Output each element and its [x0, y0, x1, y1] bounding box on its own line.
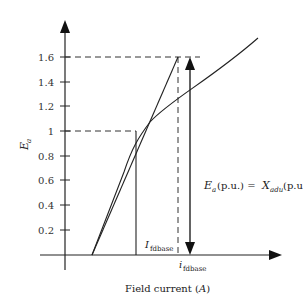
tick-0-8: 0.8: [38, 151, 54, 162]
svg-text:Field current (A): Field current (A): [125, 283, 210, 294]
tick-1-6: 1.6: [38, 52, 54, 63]
arrow-up-icon: [185, 57, 195, 70]
tick-1-2: 1.2: [38, 101, 54, 112]
svg-text:a: a: [212, 186, 216, 194]
occ-curve: [92, 38, 258, 255]
tick-0-6: 0.6: [38, 175, 54, 186]
svg-text:fdbase: fdbase: [150, 245, 173, 253]
equation-label: E a (p.u.) = X adu (p.u.): [203, 179, 303, 194]
svg-text:E: E: [203, 179, 212, 192]
tick-0-4: 0.4: [38, 200, 54, 211]
svg-text:(p.u.): (p.u.): [283, 180, 303, 191]
tick-1: 1: [48, 126, 54, 137]
y-axis-arrow-icon: [60, 20, 70, 33]
tick-0-2: 0.2: [38, 225, 54, 236]
svg-text:fdbase: fdbase: [183, 265, 206, 273]
svg-text:a: a: [25, 139, 33, 143]
tick-1-4: 1.4: [38, 77, 54, 88]
x-axis-arrow-icon: [269, 250, 282, 260]
saturation-diagram: 1.6 1.4 1.2 1 0.8 0.6 0.4 0.2 E a E a (p…: [0, 0, 303, 296]
air-gap-line: [92, 57, 178, 255]
svg-text:(p.u.) =: (p.u.) =: [217, 180, 256, 191]
arrow-down-icon: [185, 242, 195, 255]
y-axis-label: E a: [18, 139, 33, 151]
y-tick-labels: 1.6 1.4 1.2 1 0.8 0.6 0.4 0.2: [38, 52, 54, 236]
svg-text:i: i: [179, 259, 182, 270]
ifdbase-dashed-label: i fdbase: [179, 259, 206, 273]
svg-text:adu: adu: [270, 186, 284, 194]
ifdbase-solid-label: I fdbase: [144, 239, 173, 253]
x-axis-label: Field current (A): [125, 283, 210, 294]
